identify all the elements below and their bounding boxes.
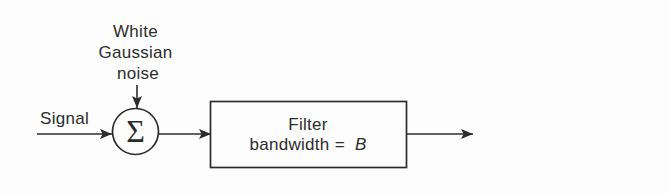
diagram-canvas: White Gaussian noise Signal Σ Filter ban… xyxy=(0,0,670,194)
noise-label-line2: Gaussian xyxy=(98,43,172,62)
filter-bandwidth-text: bandwidth = xyxy=(249,135,344,154)
filter-label-line2: bandwidth = B xyxy=(249,135,366,154)
signal-label: Signal xyxy=(40,109,89,128)
block-diagram-figure: White Gaussian noise Signal Σ Filter ban… xyxy=(0,0,670,194)
filter-label-line1: Filter xyxy=(288,115,328,134)
sigma-symbol: Σ xyxy=(126,113,145,149)
filter-bandwidth-variable: B xyxy=(355,135,367,154)
noise-label-line3: noise xyxy=(117,64,159,83)
noise-label-line1: White xyxy=(113,22,158,41)
noise-source-label: White Gaussian noise xyxy=(98,22,177,83)
